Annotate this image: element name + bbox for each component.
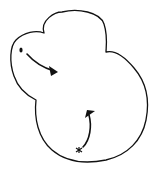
lobed-outline (11, 11, 148, 162)
arrow-2-shaft (83, 115, 90, 147)
start-dot (19, 47, 22, 52)
diagram-canvas (0, 0, 157, 173)
star-mark (76, 147, 82, 153)
arrow-1-head (49, 66, 58, 76)
